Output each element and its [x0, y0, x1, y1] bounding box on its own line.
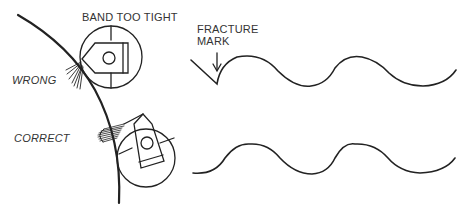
wrong-wave	[191, 56, 456, 86]
band-too-tight-label: BAND TOO TIGHT	[82, 11, 178, 23]
wrong-clamp-hole	[103, 52, 115, 64]
fracture-label-line2: MARK	[197, 35, 230, 47]
wrong-label: WRONG	[12, 74, 56, 86]
wrong-clamp-detail	[80, 26, 142, 88]
wrong-clamp-tab	[82, 43, 128, 73]
diagram-canvas: BAND TOO TIGHT WRONG CORRECT FRACTURE MA…	[0, 0, 468, 216]
correct-clamp-hole	[141, 137, 153, 149]
correct-wave	[193, 144, 455, 174]
correct-clamp-detail	[117, 114, 175, 187]
fracture-label-line1: FRACTURE	[197, 23, 259, 35]
correct-clamp-tab	[134, 114, 164, 168]
wrong-frayed-strands	[66, 62, 83, 89]
correct-label: CORRECT	[14, 132, 70, 144]
fracture-arrow	[213, 53, 221, 71]
